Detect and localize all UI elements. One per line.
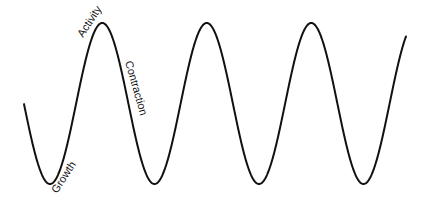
cycle-wave-line [24, 23, 406, 184]
label-activity: Activity [75, 3, 104, 39]
business-cycle-diagram: Activity Contraction Growth [0, 0, 425, 209]
label-contraction: Contraction [123, 59, 150, 116]
label-growth: Growth [49, 159, 78, 195]
